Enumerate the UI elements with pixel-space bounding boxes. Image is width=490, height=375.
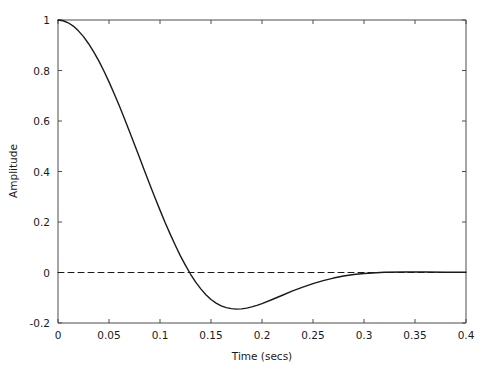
x-tick-label-4: 0.2	[254, 329, 271, 341]
y-tick-label-4: 0.6	[33, 115, 50, 127]
chart-figure: 00.050.10.150.20.250.30.350.4 -0.200.20.…	[0, 0, 490, 375]
x-tick-label-2: 0.1	[152, 329, 169, 341]
x-axis-title: Time (secs)	[231, 350, 292, 362]
x-tick-label-0: 0	[55, 329, 62, 341]
x-tick-label-8: 0.4	[458, 329, 475, 341]
y-tick-label-3: 0.4	[33, 166, 50, 178]
x-tick-label-5: 0.25	[301, 329, 324, 341]
x-tick-label-6: 0.3	[356, 329, 373, 341]
y-tick-label-6: 1	[43, 14, 50, 26]
y-tick-labels: -0.200.20.40.60.81	[30, 14, 51, 329]
x-tick-label-7: 0.35	[403, 329, 426, 341]
y-tick-label-5: 0.8	[33, 65, 50, 77]
y-tick-label-2: 0.2	[33, 216, 50, 228]
x-tick-label-3: 0.15	[199, 329, 222, 341]
y-axis-title: Amplitude	[7, 144, 19, 198]
x-tick-labels: 00.050.10.150.20.250.30.350.4	[55, 329, 475, 341]
y-tick-label-0: -0.2	[30, 317, 51, 329]
plot-background	[58, 20, 466, 323]
x-tick-label-1: 0.05	[97, 329, 120, 341]
y-tick-label-1: 0	[43, 267, 50, 279]
amplitude-vs-time-plot: 00.050.10.150.20.250.30.350.4 -0.200.20.…	[0, 0, 490, 375]
